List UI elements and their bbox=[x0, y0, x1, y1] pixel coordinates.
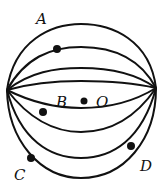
sphere-diagram: A B O C D bbox=[0, 0, 163, 180]
label-B: B bbox=[55, 93, 67, 111]
point-O-dot bbox=[81, 98, 88, 105]
label-C: C bbox=[14, 166, 26, 180]
arc-equator-top bbox=[7, 81, 156, 90]
label-O: O bbox=[96, 93, 108, 111]
arc-upper-2 bbox=[7, 68, 156, 90]
arc-lower-1 bbox=[7, 88, 156, 132]
point-D-dot bbox=[127, 142, 135, 150]
arc-equator-bottom bbox=[7, 88, 156, 108]
label-D: D bbox=[139, 157, 152, 175]
label-A: A bbox=[34, 10, 47, 28]
point-B-dot bbox=[39, 108, 47, 116]
diagram-canvas: A B O C D bbox=[0, 0, 163, 180]
point-A-dot bbox=[53, 45, 61, 53]
point-C-dot bbox=[27, 154, 35, 162]
